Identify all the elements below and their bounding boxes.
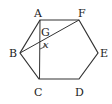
- vertex-label-a: A: [33, 7, 43, 20]
- segment-ac: [40, 20, 41, 79]
- vertex-label-b: B: [9, 47, 17, 60]
- vertex-label-c: C: [34, 86, 42, 99]
- hexagon-diagram: A F E D C B G x: [0, 0, 112, 104]
- vertex-label-d: D: [75, 86, 84, 99]
- hexagon-svg: A F E D C B G x: [0, 0, 112, 104]
- angle-label-x: x: [43, 39, 49, 50]
- hexagon-outline: [20, 20, 98, 79]
- vertex-label-e: E: [100, 47, 108, 60]
- vertex-label-f: F: [78, 7, 86, 20]
- intersection-label-g: G: [41, 26, 50, 39]
